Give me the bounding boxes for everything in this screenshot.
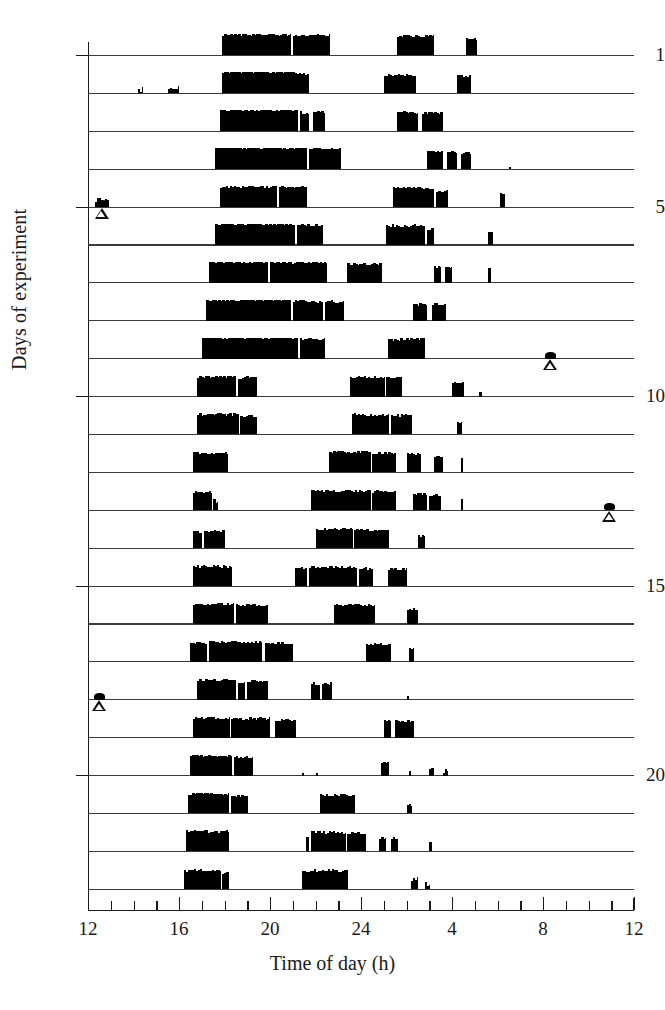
activity-bar <box>217 502 218 510</box>
actogram-day-row <box>88 282 634 283</box>
actogram-day-row <box>88 661 634 662</box>
activity-bar <box>323 113 325 131</box>
actogram-day-row <box>88 548 634 549</box>
activity-bar <box>390 644 391 662</box>
activity-bar <box>269 717 270 737</box>
activity-bar <box>305 568 307 586</box>
actogram-day-row <box>88 207 634 208</box>
activity-bar <box>414 76 416 93</box>
x-axis-major-tick <box>361 897 362 910</box>
x-axis-minor-tick <box>111 901 112 910</box>
activity-bar <box>433 189 434 207</box>
x-axis-minor-tick <box>589 901 590 910</box>
actogram-day-row <box>88 93 634 94</box>
activity-bar <box>447 771 448 775</box>
x-axis-minor-tick <box>498 901 499 910</box>
activity-bar <box>444 304 446 321</box>
activity-bar <box>276 186 277 207</box>
actogram-day-row <box>88 396 634 397</box>
activity-bar <box>290 34 291 55</box>
activity-bar <box>324 338 325 359</box>
x-axis-major-tick <box>179 897 180 910</box>
activity-bar <box>425 305 427 320</box>
day-baseline <box>88 661 634 662</box>
day-baseline <box>88 775 634 776</box>
x-axis-line <box>88 910 634 911</box>
activity-bar <box>228 832 230 851</box>
activity-bar <box>461 499 463 510</box>
activity-bar <box>228 793 229 813</box>
activity-bar <box>388 531 389 548</box>
activity-bar <box>476 40 478 56</box>
x-axis-major-tick <box>452 897 453 910</box>
x-axis-major-tick <box>543 897 544 910</box>
activity-bar <box>371 569 373 586</box>
activity-bar <box>245 796 247 814</box>
x-axis-minor-tick <box>566 901 567 910</box>
x-axis-minor-tick <box>202 901 203 910</box>
actogram-day-row <box>88 737 634 738</box>
x-axis-major-tick <box>270 897 271 910</box>
activity-bar <box>442 457 444 472</box>
y-axis-tick <box>76 586 88 587</box>
marker-blot <box>545 352 556 359</box>
x-axis-major-tick <box>88 897 89 910</box>
activity-bar <box>204 644 206 662</box>
event-marker-triangle-icon <box>602 511 616 522</box>
x-axis-minor-tick <box>293 901 294 910</box>
actogram-day-row <box>88 320 634 321</box>
x-axis-tick-label: 24 <box>331 918 391 940</box>
activity-bar <box>433 35 434 55</box>
activity-bar <box>235 681 236 699</box>
activity-bar <box>374 605 375 624</box>
activity-bar <box>291 644 293 662</box>
activity-bar <box>296 338 298 359</box>
day-baseline <box>88 320 634 321</box>
day-baseline <box>88 244 634 245</box>
activity-bar <box>461 422 462 434</box>
activity-bar <box>227 454 228 472</box>
marker-blot <box>94 693 105 700</box>
actogram-day-row <box>88 169 634 170</box>
activity-bar <box>409 771 411 776</box>
actogram-day-row <box>88 472 634 473</box>
y-axis-tick <box>76 55 88 56</box>
actogram-day-row <box>88 889 634 890</box>
activity-bar <box>231 567 232 586</box>
actogram-day-row <box>88 813 634 814</box>
activity-bar <box>369 452 370 473</box>
activity-bar <box>235 378 236 397</box>
activity-bar <box>442 112 443 132</box>
event-marker-triangle-icon <box>92 700 106 711</box>
day-baseline <box>88 813 634 814</box>
activity-bar <box>429 842 431 851</box>
activity-bar <box>267 682 268 700</box>
actogram-day-row <box>88 131 634 132</box>
activity-bar <box>440 267 441 283</box>
activity-bar <box>394 491 395 510</box>
activity-bar <box>411 806 412 814</box>
x-axis-tick-label: 16 <box>149 918 209 940</box>
x-axis-minor-tick <box>225 901 226 910</box>
activity-bar <box>302 773 304 776</box>
day-baseline <box>88 169 634 170</box>
activity-bar <box>230 756 231 776</box>
activity-bar <box>244 682 245 700</box>
activity-bar <box>305 187 307 207</box>
activity-bar <box>419 454 421 473</box>
marker-blot <box>604 503 615 510</box>
day-baseline <box>88 737 634 738</box>
y-axis-tick <box>76 396 88 397</box>
actogram-day-row <box>88 245 634 246</box>
activity-bar <box>329 34 330 55</box>
activity-bar <box>388 414 389 435</box>
day-baseline <box>88 55 634 56</box>
activity-bar <box>354 795 355 813</box>
activity-bar <box>385 838 386 851</box>
activity-bar <box>290 300 291 321</box>
event-marker-triangle-icon <box>95 208 109 219</box>
actogram-day-row <box>88 55 634 56</box>
activity-bar <box>492 232 493 245</box>
activity-bar <box>461 458 463 472</box>
activity-bar <box>417 610 419 624</box>
